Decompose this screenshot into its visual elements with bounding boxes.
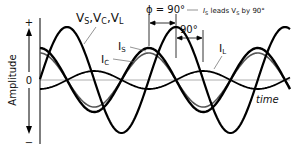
ic-label: IC	[101, 53, 109, 67]
il-label: IL	[219, 42, 226, 56]
phase-note: IS leads VS by 90°	[203, 7, 265, 16]
il-leader	[214, 56, 222, 69]
is-label: IS	[118, 40, 126, 54]
lc-phase-diagram: + − 0 Amplitude ϕ = 90° IS leads VS by 9…	[0, 0, 292, 150]
phi-label: ϕ = 90°	[146, 4, 185, 15]
second-90-label: 90°	[180, 24, 198, 35]
time-label: time	[256, 94, 279, 105]
voltage-label: VS,VC,VL	[76, 11, 124, 26]
y-axis-zero: 0	[26, 75, 32, 86]
voltage-leader	[84, 27, 96, 44]
y-axis-plus: +	[25, 17, 33, 28]
y-axis-label: Amplitude	[7, 54, 18, 105]
ic-leader	[113, 59, 134, 62]
phase-marker-phi	[149, 14, 176, 58]
y-axis-minus: −	[25, 137, 33, 148]
